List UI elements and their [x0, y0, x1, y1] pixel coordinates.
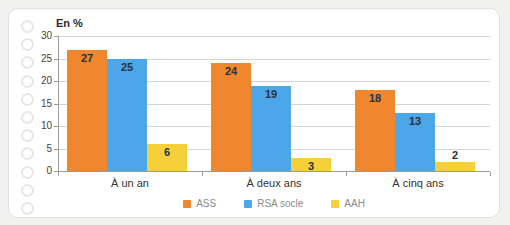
bar-value-label: 24 [211, 65, 251, 77]
bar-ass [67, 50, 107, 172]
chart-legend: ASSRSA socleAAH [58, 198, 490, 209]
bar-value-label: 6 [147, 146, 187, 158]
bar-value-label: 18 [355, 92, 395, 104]
legend-item-aah: AAH [331, 198, 365, 209]
bar-value-label: 25 [107, 61, 147, 73]
y-tick-label: 15 [26, 98, 52, 109]
x-tick-mark [346, 172, 347, 176]
y-axis-unit-label: En % [56, 17, 83, 29]
bar-value-label: 2 [435, 149, 475, 161]
y-tick-label: 25 [26, 53, 52, 64]
y-tick-label: 20 [26, 75, 52, 86]
legend-swatch [183, 200, 191, 208]
x-category-label: À un an [58, 177, 202, 189]
legend-label: ASS [196, 198, 216, 209]
gridline [58, 36, 490, 37]
bar-value-label: 13 [395, 115, 435, 127]
x-tick-mark [202, 172, 203, 176]
legend-item-ass: ASS [183, 198, 216, 209]
x-tick-mark [58, 172, 59, 176]
y-axis [58, 36, 59, 171]
legend-swatch [244, 200, 252, 208]
bar-value-label: 19 [251, 88, 291, 100]
x-category-label: À cinq ans [346, 177, 490, 189]
chart-card: En % 05101520253027256À un an24193À deux… [8, 8, 500, 218]
legend-item-rsa-socle: RSA socle [244, 198, 303, 209]
x-axis [58, 171, 490, 172]
bar-ass [211, 63, 251, 171]
y-tick-label: 5 [26, 143, 52, 154]
bar-rsa-socle [107, 59, 147, 172]
bar-value-label: 27 [67, 52, 107, 64]
x-tick-mark [490, 172, 491, 176]
legend-label: AAH [344, 198, 365, 209]
bar-value-label: 3 [291, 160, 331, 172]
ring-hole [21, 202, 34, 215]
ring-hole [21, 184, 34, 197]
bar-aah [435, 162, 475, 171]
y-tick-label: 10 [26, 120, 52, 131]
legend-label: RSA socle [257, 198, 303, 209]
ring-hole [21, 129, 34, 142]
y-tick-label: 30 [26, 30, 52, 41]
legend-swatch [331, 200, 339, 208]
x-category-label: À deux ans [202, 177, 346, 189]
y-tick-label: 0 [26, 165, 52, 176]
